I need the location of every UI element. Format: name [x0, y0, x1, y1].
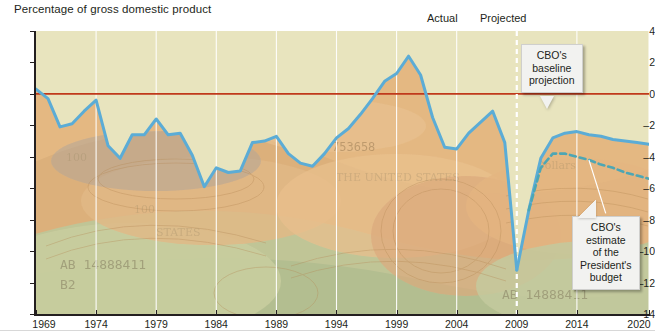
bottom-strip [0, 331, 655, 336]
x-tick-mark-1999 [397, 310, 398, 316]
x-tick-1984: 1984 [205, 318, 228, 330]
y-tick-mark--14 [30, 314, 35, 315]
y-tick-mark--4 [30, 157, 35, 158]
x-tick-mark-1989 [276, 310, 277, 316]
x-tick-2009: 2009 [505, 318, 528, 330]
y-tick--4: –4 [625, 151, 655, 163]
page-title: Percentage of gross domestic product [14, 3, 211, 15]
callout-line: CBO's [529, 49, 575, 62]
x-tick-1969: 1969 [32, 318, 55, 330]
callout-baseline-projection: CBO'sbaselineprojection [521, 44, 583, 93]
x-tick-1999: 1999 [385, 318, 408, 330]
y-tick-mark-0 [30, 94, 35, 95]
x-tick-mark-1974 [96, 310, 97, 316]
y-tick--6: –6 [625, 182, 655, 194]
x-axis [34, 314, 649, 316]
y-tick-mark--12 [30, 283, 35, 284]
x-tick-mark-2014 [577, 310, 578, 316]
x-tick-mark-2009 [517, 310, 518, 316]
x-tick-1979: 1979 [145, 318, 168, 330]
y-tick-mark-4 [30, 31, 35, 32]
period-label-projected: Projected [480, 12, 526, 24]
y-axis [34, 31, 36, 316]
y-tick-4: 4 [625, 25, 655, 37]
callout-president-tail [578, 200, 596, 218]
x-tick-mark-2020 [649, 310, 650, 316]
y-tick-mark--10 [30, 251, 35, 252]
x-tick-mark-1984 [216, 310, 217, 316]
callout-line: President's [580, 259, 632, 272]
y-tick-mark-2 [30, 62, 35, 63]
x-tick-2004: 2004 [445, 318, 468, 330]
chart-figure: Percentage of gross domestic product Act… [0, 0, 655, 336]
x-tick-1974: 1974 [84, 318, 107, 330]
period-label-actual: Actual [427, 12, 458, 24]
callout-line: budget [580, 271, 632, 284]
callout-baseline-tail [540, 96, 554, 109]
x-tick-1989: 1989 [265, 318, 288, 330]
y-tick-2: 2 [625, 56, 655, 68]
x-tick-mark-2004 [457, 310, 458, 316]
x-tick-2020: 2020 [627, 318, 650, 330]
x-tick-mark-1994 [336, 310, 337, 316]
callout-line: estimate [580, 234, 632, 247]
x-tick-mark-1979 [156, 310, 157, 316]
x-tick-2014: 2014 [565, 318, 588, 330]
y-tick-mark--8 [30, 220, 35, 221]
y-tick--2: –2 [625, 119, 655, 131]
callout-line: projection [529, 74, 575, 87]
callout-line: of the [580, 246, 632, 259]
callout-line: baseline [529, 62, 575, 75]
x-tick-mark-1969 [36, 310, 37, 316]
callout-line: CBO's [580, 221, 632, 234]
y-tick-mark--6 [30, 188, 35, 189]
y-tick-0: 0 [625, 88, 655, 100]
callout-president-budget: CBO'sestimateof thePresident'sbudget [572, 216, 640, 290]
y-tick-mark--2 [30, 125, 35, 126]
x-tick-1994: 1994 [325, 318, 348, 330]
